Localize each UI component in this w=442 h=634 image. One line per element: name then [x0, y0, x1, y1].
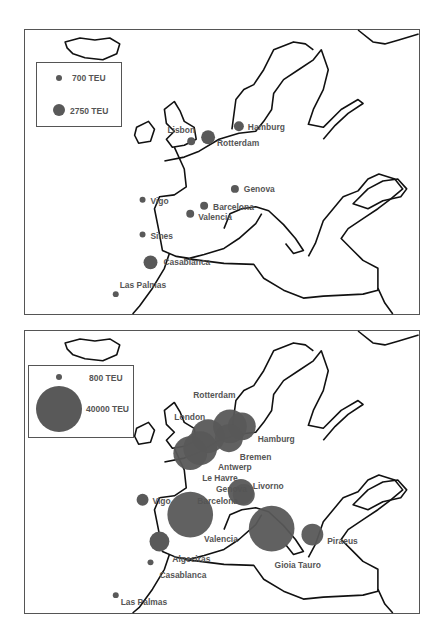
legend-label-small: 800 TEU: [89, 373, 123, 383]
map-panel-top: LisbonRotterdamHamburgVigoSinesGenovaBar…: [24, 29, 420, 315]
port-bubble-hamburg: [234, 121, 244, 131]
legend: 800 TEU 40000 TEU: [28, 365, 134, 438]
port-bubble-le-havre: [173, 436, 207, 470]
port-label-bremen: Bremen: [240, 452, 271, 462]
port-label-rotterdam: Rotterdam: [217, 138, 259, 148]
port-bubble-casablanca: [148, 559, 154, 565]
port-bubble-gioia-tauro: [249, 506, 295, 552]
legend-symbol-small: [56, 374, 62, 380]
port-bubble-casablanca: [144, 255, 158, 269]
legend-label-small: 700 TEU: [72, 73, 106, 83]
port-label-genova: Genova: [216, 484, 247, 494]
port-bubble-lisbon: [187, 137, 195, 145]
legend-label-large: 40000 TEU: [86, 404, 129, 414]
legend-symbol-small: [56, 75, 62, 81]
port-label-piraeus: Piraeus: [327, 536, 358, 546]
port-label-le-havre: Le Havre: [202, 473, 238, 483]
legend-symbol-large: [53, 104, 65, 116]
port-label-livorno: Livorno: [253, 481, 284, 491]
port-label-gioia-tauro: Gioia Tauro: [275, 560, 321, 570]
port-label-valencia: Valencia: [204, 535, 238, 545]
port-bubble-barcelona: [200, 202, 208, 210]
port-bubble-rotterdam: [201, 130, 215, 144]
port-bubble-bremen: [215, 424, 243, 452]
legend: 700 TEU 2750 TEU: [36, 62, 122, 127]
legend-symbol-large: [36, 386, 82, 432]
port-bubble-vigo: [137, 494, 149, 506]
port-label-las-palmas: Las Palmas: [120, 280, 167, 290]
port-label-hamburg: Hamburg: [248, 122, 285, 132]
port-label-algeciras: Algeciras: [172, 554, 210, 564]
port-label-lisbon: Lisbon: [167, 125, 195, 135]
port-bubble-valencia: [186, 210, 194, 218]
port-label-valencia: Valencia: [198, 212, 232, 222]
port-label-casablanca: Casablanca: [159, 570, 206, 580]
port-label-barcelona: Barcelona: [213, 202, 254, 212]
port-label-barcelona: Barcelona: [197, 496, 238, 506]
port-label-sines: Sines: [151, 231, 174, 241]
port-bubble-genova: [231, 185, 239, 193]
port-label-london: London: [174, 412, 205, 422]
port-bubble-las-palmas: [113, 592, 119, 598]
port-bubble-piraeus: [301, 524, 323, 546]
port-label-rotterdam: Rotterdam: [193, 390, 235, 400]
map-panel-bottom: RotterdamHamburgLondonBremenAntwerpLe Ha…: [24, 330, 420, 614]
port-label-casablanca: Casablanca: [163, 257, 210, 267]
port-bubble-vigo: [140, 197, 146, 203]
port-bubble-sines: [140, 232, 146, 238]
port-bubble-algeciras: [150, 532, 170, 552]
legend-label-large: 2750 TEU: [70, 106, 108, 116]
port-label-genova: Genova: [244, 184, 275, 194]
port-label-vigo: Vigo: [152, 496, 170, 506]
port-label-hamburg: Hamburg: [258, 434, 295, 444]
port-label-vigo: Vigo: [151, 196, 169, 206]
port-bubble-las-palmas: [113, 291, 119, 297]
port-label-antwerp: Antwerp: [218, 462, 252, 472]
port-label-las-palmas: Las Palmas: [121, 597, 168, 607]
